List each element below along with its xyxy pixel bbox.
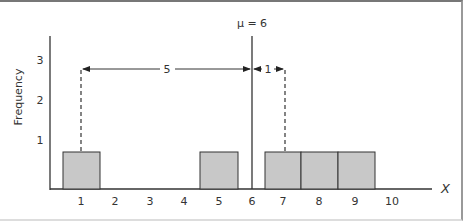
distance-5-label: 5: [164, 63, 171, 76]
x-tick-3: 3: [147, 195, 154, 208]
x-tick-2: 2: [112, 195, 119, 208]
histogram-chart: μ = 6 5 1 3 2 1 Frequency 1 2 3 4 5 6 7 …: [0, 0, 469, 223]
x-tick-4: 4: [181, 195, 188, 208]
bar-9: [338, 152, 375, 189]
mean-label: μ = 6: [237, 17, 267, 30]
x-tick-1: 1: [78, 195, 85, 208]
y-tick-3: 3: [37, 54, 44, 67]
x-tick-5: 5: [216, 195, 223, 208]
x-tick-10: 10: [385, 195, 399, 208]
x-tick-9: 9: [352, 195, 359, 208]
y-tick-2: 2: [37, 94, 44, 107]
distance-1-label: 1: [265, 63, 272, 76]
y-tick-1: 1: [37, 134, 44, 147]
y-axis-label: Frequency: [12, 68, 25, 125]
x-tick-7: 7: [280, 195, 287, 208]
x-tick-6: 6: [249, 195, 256, 208]
x-axis-label: X: [440, 181, 451, 196]
x-tick-8: 8: [316, 195, 323, 208]
bar-7: [265, 152, 301, 189]
bar-1: [63, 152, 100, 189]
bar-5: [200, 152, 238, 189]
bar-8: [301, 152, 338, 189]
